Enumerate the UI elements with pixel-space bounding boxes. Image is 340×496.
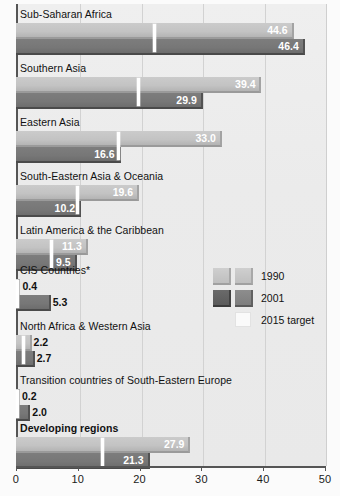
legend-label-1990: 1990 [261,266,284,286]
row-label: CIS Countries* [20,264,90,276]
bar-value-2001: 2.0 [32,405,47,419]
target-marker-2015 [16,390,19,418]
bar-value-1990: 11.3 [54,239,82,253]
x-tick-0 [16,466,17,471]
bar-value-1990: 2.2 [34,335,49,349]
bar-value-1990: 44.6 [260,23,288,37]
x-axis-line [16,466,325,468]
row-label: Eastern Asia [20,116,80,128]
target-marker-2015 [16,280,19,308]
legend-swatch-2001-a [213,290,231,307]
x-tick-20 [140,466,141,471]
bar-value-2001: 21.3 [116,453,144,467]
x-tick-label-50: 50 [319,473,332,485]
legend-swatch-1990-a [213,268,231,285]
x-tick-50 [325,466,326,471]
x-tick-label-40: 40 [257,473,270,485]
target-marker-2015 [117,132,120,160]
bar-value-2001: 10.2 [47,201,75,215]
target-marker-2015 [22,336,25,364]
row-label: Latin America & the Caribbean [20,224,164,236]
legend-swatch-2001-b [235,290,253,307]
bar-value-2001: 2.7 [37,351,52,365]
row-label: Developing regions [20,422,118,434]
x-tick-label-0: 0 [13,473,19,485]
chart-root: Sub-Saharan Africa44.646.4Southern Asia3… [0,0,340,496]
bar-value-1990: 19.6 [105,185,133,199]
bar-2001 [16,39,305,55]
bar-value-1990: 27.9 [156,437,184,451]
bar-value-1990: 0.4 [22,279,37,293]
bar-value-2001: 5.3 [53,295,68,309]
bar-2001 [16,351,35,367]
x-tick-10 [78,466,79,471]
row-label: Southern Asia [20,62,86,74]
bar-value-2001: 29.9 [169,93,197,107]
bar-2001 [16,295,51,311]
target-marker-2015 [137,78,140,106]
gridline-30 [203,4,204,466]
target-marker-2015 [101,438,104,466]
target-marker-2015 [153,24,156,52]
row-label: Sub-Saharan Africa [20,8,112,20]
x-tick-label-10: 10 [71,473,84,485]
target-marker-2015 [76,186,79,214]
bar-value-1990: 33.0 [188,131,216,145]
legend-label-2001: 2001 [261,288,284,308]
row-label: South-Eastern Asia & Oceania [20,170,163,182]
gridline-40 [265,4,266,466]
plot-right-border [326,4,327,466]
legend-swatch-2015-target [235,312,251,327]
x-tick-40 [263,466,264,471]
legend-swatch-1990-b [235,268,253,285]
bar-value-2001: 46.4 [271,39,299,53]
x-tick-label-30: 30 [195,473,208,485]
row-label: Transition countries of South-Eastern Eu… [20,374,232,386]
bar-value-1990: 39.4 [227,77,255,91]
x-tick-30 [201,466,202,471]
bar-value-2001: 16.6 [87,147,115,161]
x-tick-label-20: 20 [133,473,146,485]
legend-label-2015-target: 2015 target [261,310,314,330]
bar-value-1990: 0.2 [22,389,37,403]
row-label: North Africa & Western Asia [20,320,151,332]
